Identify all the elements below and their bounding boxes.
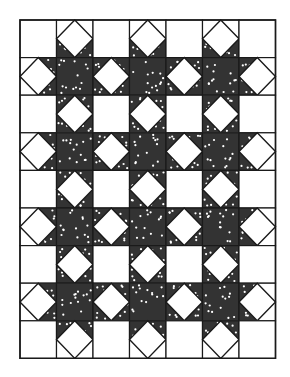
- diamond-block: [203, 321, 240, 359]
- diamond-block: [93, 208, 130, 246]
- diamond-block: [130, 246, 167, 284]
- diamond-block: [239, 58, 276, 96]
- diamond-block: [20, 208, 57, 246]
- plain-block: [166, 20, 203, 58]
- diamond-block: [239, 133, 276, 171]
- star-center-block: [203, 283, 240, 321]
- plain-block: [239, 170, 276, 208]
- plain-block: [166, 170, 203, 208]
- diamond-block: [130, 20, 167, 58]
- plain-block: [239, 95, 276, 133]
- star-center-block: [57, 208, 94, 246]
- plain-block: [20, 170, 57, 208]
- diamond-block: [239, 208, 276, 246]
- quilt-grid: [19, 19, 277, 359]
- diamond-block: [166, 283, 203, 321]
- plain-block: [93, 170, 130, 208]
- plain-block: [93, 246, 130, 284]
- diamond-block: [20, 58, 57, 96]
- plain-block: [239, 321, 276, 359]
- star-center-block: [130, 133, 167, 171]
- diamond-block: [57, 321, 94, 359]
- diamond-block: [166, 208, 203, 246]
- plain-block: [166, 321, 203, 359]
- star-center-block: [130, 283, 167, 321]
- star-center-block: [57, 283, 94, 321]
- diamond-block: [239, 283, 276, 321]
- plain-block: [239, 20, 276, 58]
- diamond-block: [57, 95, 94, 133]
- diamond-block: [93, 58, 130, 96]
- diamond-block: [203, 246, 240, 284]
- diamond-block: [20, 283, 57, 321]
- diamond-block: [93, 283, 130, 321]
- diamond-block: [20, 133, 57, 171]
- plain-block: [20, 20, 57, 58]
- diamond-block: [57, 246, 94, 284]
- diamond-block: [166, 133, 203, 171]
- star-center-block: [130, 208, 167, 246]
- star-center-block: [130, 58, 167, 96]
- plain-block: [93, 95, 130, 133]
- diamond-block: [130, 95, 167, 133]
- diamond-block: [166, 58, 203, 96]
- star-center-block: [203, 208, 240, 246]
- plain-block: [20, 95, 57, 133]
- star-center-block: [57, 58, 94, 96]
- diamond-block: [57, 20, 94, 58]
- plain-block: [166, 95, 203, 133]
- diamond-block: [130, 170, 167, 208]
- star-center-block: [57, 133, 94, 171]
- plain-block: [20, 321, 57, 359]
- diamond-block: [130, 321, 167, 359]
- diamond-block: [203, 170, 240, 208]
- star-center-block: [203, 133, 240, 171]
- plain-block: [93, 321, 130, 359]
- diamond-block: [203, 20, 240, 58]
- plain-block: [93, 20, 130, 58]
- diamond-block: [203, 95, 240, 133]
- plain-block: [20, 246, 57, 284]
- plain-block: [166, 246, 203, 284]
- diamond-block: [57, 170, 94, 208]
- star-center-block: [203, 58, 240, 96]
- plain-block: [239, 246, 276, 284]
- diamond-block: [93, 133, 130, 171]
